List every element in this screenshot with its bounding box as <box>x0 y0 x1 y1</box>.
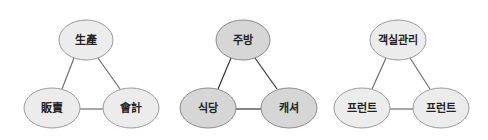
node-room-management: 객실관리 <box>370 20 426 60</box>
node-label: 프런트 <box>426 101 456 115</box>
diagram-3: 객실관리 프런트 프런트 <box>334 20 469 128</box>
diagram-2: 주방 식당 캐셔 <box>180 20 317 128</box>
edge-top-right <box>255 58 277 89</box>
triangle-diagrams: 生產 販賣 會計 주방 식당 캐셔 <box>0 0 488 140</box>
node-label: 주방 <box>233 33 253 47</box>
node-front-right: 프런트 <box>413 88 469 128</box>
node-accounting: 會計 <box>103 88 159 128</box>
edge-top-right <box>410 58 430 89</box>
node-label: 식당 <box>198 101 218 115</box>
edge-top-left <box>218 58 231 89</box>
node-label: 프런트 <box>347 101 377 115</box>
node-label: 會計 <box>120 101 142 115</box>
edge-top-left <box>372 58 386 89</box>
node-label: 販賣 <box>41 101 64 115</box>
node-restaurant: 식당 <box>180 88 236 128</box>
node-label: 객실관리 <box>378 33 418 47</box>
edge-top-right <box>98 58 120 89</box>
node-production: 生產 <box>59 20 113 60</box>
node-label: 캐셔 <box>279 101 299 115</box>
diagram-1: 生產 販賣 會計 <box>24 20 159 128</box>
node-label: 生產 <box>75 33 97 47</box>
node-cashier: 캐셔 <box>261 88 317 128</box>
edge-top-left <box>62 58 74 89</box>
node-kitchen: 주방 <box>216 20 270 60</box>
node-front-left: 프런트 <box>334 88 390 128</box>
node-sales: 販賣 <box>24 88 80 128</box>
